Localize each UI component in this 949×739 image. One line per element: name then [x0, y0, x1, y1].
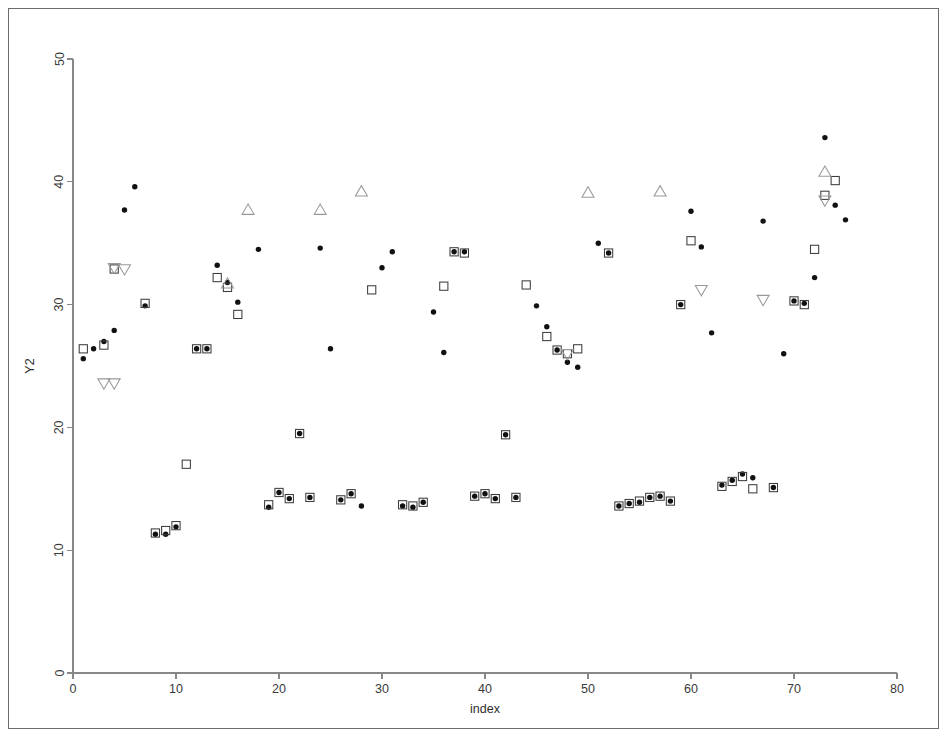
marker-circle: [812, 275, 817, 280]
marker-circle: [173, 524, 178, 529]
marker-circle: [132, 184, 137, 189]
marker-circle: [781, 351, 786, 356]
marker-circle: [513, 495, 518, 500]
marker-circle: [544, 324, 549, 329]
marker-circle: [771, 485, 776, 490]
marker-triangle-up: [582, 187, 594, 197]
marker-square: [368, 286, 376, 294]
marker-circle: [833, 202, 838, 207]
marker-square: [687, 237, 695, 245]
marker-circle: [421, 500, 426, 505]
marker-circle: [348, 491, 353, 496]
y-tick-label: 20: [53, 420, 67, 434]
x-tick-label: 50: [581, 682, 595, 696]
x-tick-label: 70: [787, 682, 801, 696]
marker-circle: [760, 218, 765, 223]
marker-circle: [482, 491, 487, 496]
axes-group: [73, 59, 897, 673]
marker-circle: [235, 299, 240, 304]
marker-circle: [719, 482, 724, 487]
y-tick-label: 40: [53, 175, 67, 189]
marker-circle: [554, 347, 559, 352]
marker-circle: [400, 503, 405, 508]
marker-square: [811, 245, 819, 253]
marker-circle: [534, 303, 539, 308]
series-circle: [81, 135, 849, 537]
marker-square: [749, 485, 757, 493]
x-tick-label: 80: [890, 682, 904, 696]
series-triangle_down: [98, 196, 831, 389]
marker-circle: [503, 432, 508, 437]
marker-triangle-up: [242, 204, 254, 214]
marker-circle: [410, 505, 415, 510]
x-tick-label: 60: [684, 682, 698, 696]
axis-labels-group: indexY2: [23, 358, 501, 716]
marker-triangle-down: [108, 379, 120, 389]
ticks-group: 0102030405060708001020304050: [53, 52, 904, 696]
marker-circle: [472, 493, 477, 498]
y-tick-label: 50: [53, 52, 67, 66]
marker-circle: [328, 346, 333, 351]
marker-circle: [699, 244, 704, 249]
marker-circle: [338, 497, 343, 502]
marker-circle: [627, 501, 632, 506]
series-square: [79, 176, 839, 537]
screenshot-root: 0102030405060708001020304050 indexY2: [0, 0, 949, 739]
marker-circle: [122, 207, 127, 212]
marker-triangle-down: [98, 379, 110, 389]
marker-circle: [318, 245, 323, 250]
marker-triangle-up: [314, 204, 326, 214]
marker-circle: [390, 249, 395, 254]
marker-triangle-down: [119, 265, 131, 275]
marker-circle: [379, 265, 384, 270]
x-tick-label: 30: [375, 682, 389, 696]
y-tick-label: 10: [53, 543, 67, 557]
marker-circle: [791, 298, 796, 303]
marker-square: [440, 282, 448, 290]
marker-circle: [441, 350, 446, 355]
y-tick-label: 30: [53, 298, 67, 312]
marker-square: [79, 345, 87, 353]
marker-square: [574, 345, 582, 353]
figure-frame: 0102030405060708001020304050 indexY2: [8, 8, 939, 729]
marker-circle: [750, 475, 755, 480]
marker-square: [522, 281, 530, 289]
marker-circle: [802, 301, 807, 306]
marker-circle: [843, 217, 848, 222]
marker-square: [563, 350, 571, 358]
marker-circle: [153, 532, 158, 537]
marker-circle: [493, 496, 498, 501]
marker-circle: [606, 250, 611, 255]
marker-circle: [709, 330, 714, 335]
marker-circle: [647, 495, 652, 500]
marker-square: [831, 176, 839, 184]
marker-circle: [596, 241, 601, 246]
marker-circle: [730, 478, 735, 483]
marker-square: [821, 191, 829, 199]
marker-circle: [431, 309, 436, 314]
marker-circle: [359, 503, 364, 508]
marker-circle: [287, 496, 292, 501]
y-tick-label: 0: [53, 669, 67, 676]
marker-square: [234, 310, 242, 318]
marker-circle: [678, 302, 683, 307]
marker-circle: [276, 490, 281, 495]
marker-circle: [637, 500, 642, 505]
marker-circle: [575, 365, 580, 370]
x-tick-label: 0: [70, 682, 77, 696]
data-points-group: [79, 135, 848, 537]
marker-circle: [194, 346, 199, 351]
marker-circle: [451, 249, 456, 254]
x-tick-label: 10: [169, 682, 183, 696]
marker-circle: [215, 263, 220, 268]
marker-triangle-up: [819, 166, 831, 176]
marker-triangle-down: [695, 286, 707, 296]
marker-circle: [112, 328, 117, 333]
x-axis-title: index: [470, 702, 501, 716]
marker-circle: [256, 247, 261, 252]
x-tick-label: 20: [272, 682, 286, 696]
x-tick-label: 40: [478, 682, 492, 696]
marker-circle: [81, 356, 86, 361]
marker-circle: [307, 495, 312, 500]
marker-triangle-down: [757, 295, 769, 305]
